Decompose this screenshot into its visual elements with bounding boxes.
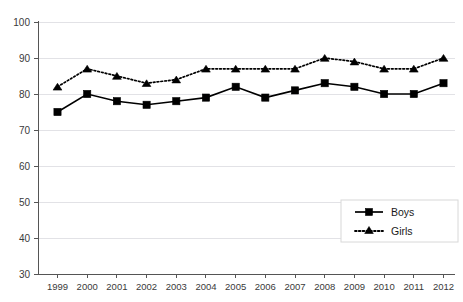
y-tick-label-30: 30	[19, 269, 31, 280]
x-tick-label-2000: 2000	[77, 281, 98, 292]
legend-marker-square-icon	[366, 209, 373, 216]
x-axis-ticks	[58, 274, 444, 278]
data-point-boys-2005	[232, 83, 239, 90]
series-girls-markers	[53, 55, 448, 91]
x-tick-label-2002: 2002	[136, 281, 157, 292]
x-axis-tick-labels: 1999200020012002200320042005200620072008…	[47, 281, 454, 292]
data-point-boys-2000	[84, 90, 91, 97]
x-tick-label-2011: 2011	[404, 281, 424, 292]
data-point-boys-2004	[202, 94, 209, 101]
data-point-boys-2007	[291, 87, 298, 94]
legend-label-boys: Boys	[391, 206, 414, 218]
y-tick-label-100: 100	[13, 17, 30, 28]
line-chart: 100 90 80 70 60 50 40 30 199920002001200…	[0, 0, 463, 302]
chart-legend[interactable]: Boys Girls	[341, 200, 458, 242]
x-tick-label-2008: 2008	[314, 281, 335, 292]
x-tick-label-2006: 2006	[255, 281, 276, 292]
x-tick-label-2005: 2005	[225, 281, 246, 292]
data-point-boys-2010	[381, 90, 388, 97]
x-tick-label-1999: 1999	[47, 281, 68, 292]
x-tick-label-2003: 2003	[166, 281, 187, 292]
y-tick-label-80: 80	[19, 89, 31, 100]
x-tick-label-2004: 2004	[195, 281, 216, 292]
legend-label-girls: Girls	[391, 225, 413, 237]
data-point-boys-2006	[262, 94, 269, 101]
x-tick-label-2012: 2012	[433, 281, 454, 292]
data-point-boys-2011	[410, 90, 417, 97]
data-point-boys-2008	[321, 80, 328, 87]
data-point-boys-1999	[54, 108, 61, 115]
y-axis-tick-labels: 100 90 80 70 60 50 40 30	[13, 17, 30, 280]
y-tick-label-70: 70	[19, 125, 31, 136]
data-point-girls-2000	[83, 65, 92, 72]
chart-plot-area: 100 90 80 70 60 50 40 30 199920002001200…	[0, 0, 463, 302]
y-tick-label-40: 40	[19, 233, 31, 244]
data-point-boys-2012	[440, 80, 447, 87]
data-point-boys-2001	[113, 98, 120, 105]
data-point-boys-2009	[351, 83, 358, 90]
y-axis-ticks	[34, 22, 38, 274]
x-tick-label-2001: 2001	[106, 281, 127, 292]
x-tick-label-2010: 2010	[374, 281, 395, 292]
y-tick-label-90: 90	[19, 53, 31, 64]
y-tick-label-50: 50	[19, 197, 31, 208]
x-tick-label-2007: 2007	[284, 281, 305, 292]
series-boys-markers	[54, 80, 447, 116]
y-tick-label-60: 60	[19, 161, 31, 172]
data-point-boys-2002	[143, 101, 150, 108]
data-point-boys-2003	[173, 98, 180, 105]
x-tick-label-2009: 2009	[344, 281, 365, 292]
